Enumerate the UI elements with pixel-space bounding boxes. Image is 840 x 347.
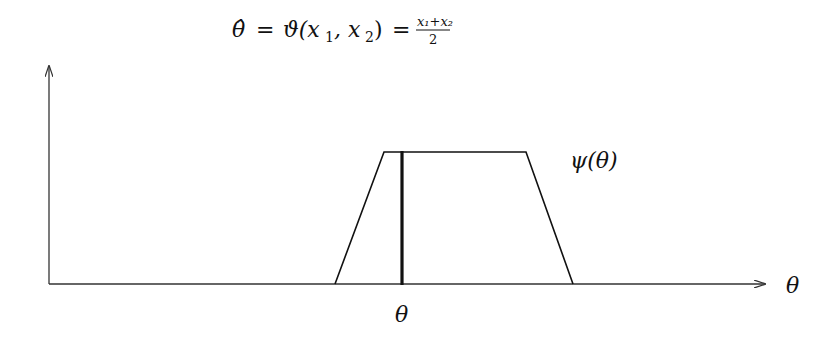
subscript-1: 1 xyxy=(325,29,334,45)
equals-sign-2: = xyxy=(392,17,410,42)
fraction-denominator: 2 xyxy=(429,32,437,47)
fraction-numerator: x₁+x₂ xyxy=(417,14,453,29)
close-paren: ) xyxy=(374,17,383,42)
theta-hat: θ̂ xyxy=(232,17,245,42)
psi-curve xyxy=(335,152,573,284)
curve-label: ψ(θ) xyxy=(570,148,618,173)
x-axis-label: θ xyxy=(786,273,799,298)
diagram-canvas: θ̂ = ϑ(x 1 , x 2 ) = x₁+x₂ 2 ψ(θ) θ θ xyxy=(0,0,840,347)
title-formula: θ̂ = ϑ(x 1 , x 2 ) = x₁+x₂ 2 xyxy=(232,14,453,47)
vartheta-func: ϑ(x xyxy=(283,17,320,42)
comma-x: , x xyxy=(334,17,361,42)
marker-label: θ xyxy=(395,302,408,327)
subscript-2: 2 xyxy=(365,29,374,45)
equals-sign: = xyxy=(256,17,274,42)
